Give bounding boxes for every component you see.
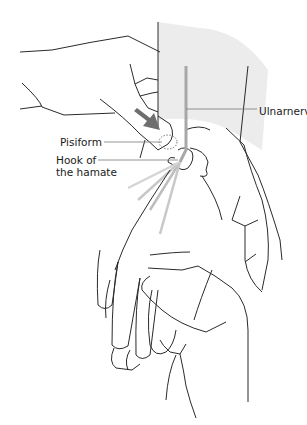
hook-label-line1: Hook of — [56, 154, 117, 166]
hook-of-hamate-label: Hook of the hamate — [56, 154, 117, 178]
hand-illustration — [0, 0, 307, 425]
anatomy-figure: Ulnarnerv Pisiform Hook of the hamate — [0, 0, 307, 425]
examiner-hand-outline — [20, 36, 160, 52]
pisiform-label: Pisiform — [60, 136, 102, 148]
patient-hand-outline — [115, 170, 170, 270]
hook-label-line2: the hamate — [56, 166, 117, 178]
ulnar-nerve-label: Ulnarnerv — [259, 105, 307, 117]
forearm-shading — [158, 22, 268, 150]
